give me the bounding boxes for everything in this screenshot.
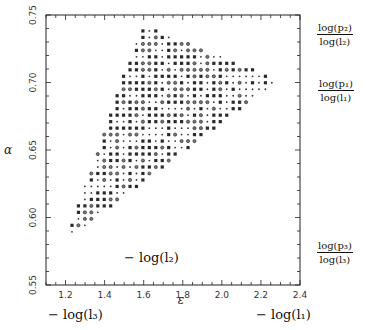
point-open-circle xyxy=(135,165,138,168)
point-filled-square xyxy=(122,114,125,117)
point-filled-square xyxy=(148,120,151,123)
point-open-circle xyxy=(193,75,196,78)
point-open-circle xyxy=(180,68,183,71)
point-filled-square xyxy=(199,75,202,78)
point-open-circle xyxy=(186,107,189,110)
point-filled-square xyxy=(193,94,196,97)
point-filled-square xyxy=(128,107,131,110)
point-small-dot xyxy=(129,166,131,168)
point-filled-square xyxy=(116,127,119,130)
point-small-dot xyxy=(161,95,163,97)
point-filled-square xyxy=(225,114,228,117)
point-open-circle xyxy=(206,75,209,78)
point-small-dot xyxy=(187,82,189,84)
point-open-circle xyxy=(77,224,80,227)
point-small-dot xyxy=(136,95,138,97)
point-filled-square xyxy=(212,94,215,97)
point-open-circle xyxy=(238,68,241,71)
point-small-dot xyxy=(168,62,170,64)
point-filled-square xyxy=(154,75,157,78)
point-open-circle xyxy=(167,159,170,162)
point-filled-square xyxy=(141,94,144,97)
point-filled-square xyxy=(225,81,228,84)
point-small-dot xyxy=(129,140,131,142)
point-filled-square xyxy=(154,94,157,97)
point-small-dot xyxy=(271,82,273,84)
point-filled-square xyxy=(167,120,170,123)
point-small-dot xyxy=(226,88,228,90)
point-filled-square xyxy=(154,81,157,84)
point-filled-square xyxy=(174,101,177,104)
point-small-dot xyxy=(116,192,118,194)
annotation-minus-log-l2: − log(l₂) xyxy=(124,250,179,265)
point-small-dot xyxy=(148,75,150,77)
point-filled-square xyxy=(135,152,138,155)
point-filled-square xyxy=(96,191,99,194)
point-filled-square xyxy=(251,68,254,71)
point-filled-square xyxy=(128,146,131,149)
point-open-circle xyxy=(141,120,144,123)
right-label-denominator: log(l₁) xyxy=(318,91,354,103)
point-filled-square xyxy=(193,81,196,84)
point-small-dot xyxy=(71,231,73,233)
point-filled-square xyxy=(135,88,138,91)
right-label-numerator: log(p₃) xyxy=(317,240,353,253)
point-filled-square xyxy=(148,139,151,142)
point-open-circle xyxy=(116,172,119,175)
point-open-circle xyxy=(122,165,125,168)
point-filled-square xyxy=(154,146,157,149)
point-filled-square xyxy=(109,159,112,162)
point-filled-square xyxy=(135,81,138,84)
point-small-dot xyxy=(136,56,138,58)
point-small-dot xyxy=(97,166,99,168)
point-filled-square xyxy=(141,165,144,168)
point-open-circle xyxy=(193,120,196,123)
point-small-dot xyxy=(136,160,138,162)
point-small-dot xyxy=(181,134,183,136)
point-small-dot xyxy=(161,134,163,136)
point-filled-square xyxy=(212,81,215,84)
point-small-dot xyxy=(136,43,138,45)
point-open-circle xyxy=(154,88,157,91)
point-filled-square xyxy=(167,127,170,130)
point-open-circle xyxy=(109,133,112,136)
point-small-dot xyxy=(148,134,150,136)
point-open-circle xyxy=(174,81,177,84)
point-filled-square xyxy=(180,101,183,104)
point-small-dot xyxy=(103,153,105,155)
point-filled-square xyxy=(128,101,131,104)
point-filled-square xyxy=(90,198,93,201)
point-filled-square xyxy=(122,81,125,84)
point-filled-square xyxy=(135,68,138,71)
point-filled-square xyxy=(186,75,189,78)
point-filled-square xyxy=(135,107,138,110)
point-filled-square xyxy=(212,62,215,65)
point-open-circle xyxy=(186,49,189,52)
x-tick-label: 1.4 xyxy=(97,290,112,300)
point-filled-square xyxy=(96,172,99,175)
point-small-dot xyxy=(206,82,208,84)
point-small-dot xyxy=(155,134,157,136)
point-filled-square xyxy=(154,29,157,32)
point-filled-square xyxy=(135,127,138,130)
point-filled-square xyxy=(212,127,215,130)
point-small-dot xyxy=(226,95,228,97)
point-open-circle xyxy=(109,198,112,201)
point-small-dot xyxy=(97,160,99,162)
point-small-dot xyxy=(181,127,183,129)
point-small-dot xyxy=(123,147,125,149)
point-small-dot xyxy=(142,56,144,58)
point-open-circle xyxy=(167,68,170,71)
point-open-circle xyxy=(186,68,189,71)
point-filled-square xyxy=(167,101,170,104)
point-small-dot xyxy=(213,101,215,103)
point-open-circle xyxy=(212,75,215,78)
point-filled-square xyxy=(167,152,170,155)
point-open-circle xyxy=(135,146,138,149)
point-filled-square xyxy=(128,172,131,175)
point-open-circle xyxy=(212,107,215,110)
point-filled-square xyxy=(154,120,157,123)
point-filled-square xyxy=(212,114,215,117)
point-small-dot xyxy=(161,56,163,58)
point-open-circle xyxy=(161,146,164,149)
